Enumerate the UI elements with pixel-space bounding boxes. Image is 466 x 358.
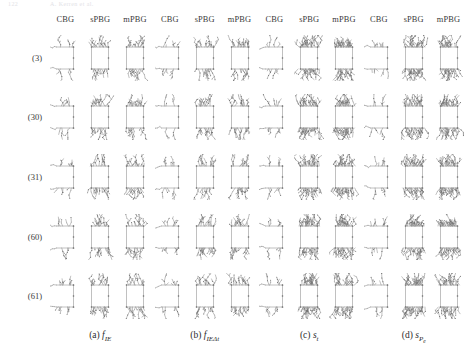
panel-group-a [48, 147, 153, 207]
graph-thumbnail-d-cbg-61[interactable] [362, 266, 397, 326]
graph-thumbnail-a-mpbg-61[interactable] [118, 266, 153, 326]
column-header-row: CBG sPBG mPBG CBG sPBG mPBG CBG sPBG mPB… [0, 15, 466, 28]
graph-thumbnail-c-cbg-61[interactable] [257, 266, 292, 326]
graph-thumbnail-a-spbg-61[interactable] [83, 266, 118, 326]
graph-thumbnail-a-cbg-30[interactable] [48, 88, 83, 148]
panel-group-d [362, 266, 466, 326]
graph-thumbnail-b-mpbg-60[interactable] [222, 207, 257, 267]
row-panel-groups [48, 88, 466, 148]
panel-group-b [153, 207, 258, 267]
column-header-group-b: CBG sPBG mPBG [153, 15, 258, 28]
panel-caption-index: (c) [300, 330, 313, 340]
panel-group-a [48, 88, 153, 148]
graph-thumbnail-b-spbg-61[interactable] [187, 266, 222, 326]
panel-group-b [153, 28, 258, 88]
graph-thumbnail-c-cbg-60[interactable] [257, 207, 292, 267]
graph-thumbnail-a-spbg-30[interactable] [83, 88, 118, 148]
graph-thumbnail-d-cbg-31[interactable] [362, 147, 397, 207]
graph-thumbnail-d-spbg-3[interactable] [396, 28, 431, 88]
panel-caption-c: (c) st [257, 330, 362, 350]
panel-group-c [257, 266, 362, 326]
graph-thumbnail-b-spbg-3[interactable] [187, 28, 222, 88]
graph-thumbnail-d-mpbg-30[interactable] [431, 88, 466, 148]
graph-thumbnail-a-spbg-3[interactable] [83, 28, 118, 88]
panel-caption-subsubscript: e [423, 338, 425, 344]
graph-thumbnail-c-spbg-30[interactable] [292, 88, 327, 148]
graph-thumbnail-b-spbg-30[interactable] [187, 88, 222, 148]
column-header-mpbg: mPBG [431, 15, 465, 24]
row-label: (60) [0, 232, 48, 242]
panel-group-d [362, 28, 466, 88]
graph-thumbnail-b-cbg-61[interactable] [153, 266, 188, 326]
graph-thumbnail-b-mpbg-30[interactable] [222, 88, 257, 148]
grid-row: (30) [0, 88, 466, 148]
graph-thumbnail-a-cbg-60[interactable] [48, 207, 83, 267]
panel-caption-d: (d) sPe [362, 330, 466, 350]
column-header-spbg: sPBG [397, 15, 431, 24]
column-header-cbg: CBG [153, 15, 187, 24]
panel-group-c [257, 207, 362, 267]
graph-thumbnail-b-cbg-30[interactable] [153, 88, 188, 148]
panel-group-a [48, 28, 153, 88]
graph-thumbnail-a-cbg-31[interactable] [48, 147, 83, 207]
graph-thumbnail-a-cbg-61[interactable] [48, 266, 83, 326]
graph-thumbnail-c-mpbg-30[interactable] [327, 88, 362, 148]
thumbnail-grid: (3)(30)(31)(60)(61) [0, 28, 466, 326]
graph-thumbnail-b-mpbg-61[interactable] [222, 266, 257, 326]
row-label: (30) [0, 112, 48, 122]
graph-thumbnail-c-mpbg-31[interactable] [327, 147, 362, 207]
graph-thumbnail-a-mpbg-31[interactable] [118, 147, 153, 207]
graph-thumbnail-d-spbg-61[interactable] [396, 266, 431, 326]
graph-thumbnail-c-spbg-31[interactable] [292, 147, 327, 207]
graph-thumbnail-b-mpbg-3[interactable] [222, 28, 257, 88]
graph-thumbnail-c-spbg-60[interactable] [292, 207, 327, 267]
column-header-mpbg: mPBG [118, 15, 152, 24]
grid-row: (61) [0, 266, 466, 326]
graph-thumbnail-d-mpbg-31[interactable] [431, 147, 466, 207]
graph-thumbnail-d-cbg-60[interactable] [362, 207, 397, 267]
graph-thumbnail-d-spbg-31[interactable] [396, 147, 431, 207]
panel-caption-subscript: t [317, 335, 319, 343]
graph-thumbnail-b-cbg-31[interactable] [153, 147, 188, 207]
graph-thumbnail-d-cbg-30[interactable] [362, 88, 397, 148]
row-panel-groups [48, 28, 466, 88]
graph-thumbnail-c-spbg-3[interactable] [292, 28, 327, 88]
graph-thumbnail-c-cbg-31[interactable] [257, 147, 292, 207]
panel-caption-index: (a) [89, 330, 102, 340]
row-label: (61) [0, 291, 48, 301]
graph-thumbnail-a-spbg-60[interactable] [83, 207, 118, 267]
graph-thumbnail-a-spbg-31[interactable] [83, 147, 118, 207]
graph-thumbnail-c-mpbg-61[interactable] [327, 266, 362, 326]
panel-group-d [362, 207, 466, 267]
graph-thumbnail-a-mpbg-3[interactable] [118, 28, 153, 88]
graph-thumbnail-c-cbg-30[interactable] [257, 88, 292, 148]
graph-thumbnail-a-cbg-3[interactable] [48, 28, 83, 88]
graph-thumbnail-b-spbg-60[interactable] [187, 207, 222, 267]
graph-thumbnail-a-mpbg-60[interactable] [118, 207, 153, 267]
panel-caption-subscript: IE [105, 335, 112, 343]
panel-group-a [48, 207, 153, 267]
column-header-group-c: CBG sPBG mPBG [257, 15, 362, 28]
graph-thumbnail-d-mpbg-61[interactable] [431, 266, 466, 326]
graph-thumbnail-b-cbg-60[interactable] [153, 207, 188, 267]
column-header-spbg: sPBG [83, 15, 117, 24]
panel-group-b [153, 266, 258, 326]
row-label: (3) [0, 53, 48, 63]
graph-thumbnail-c-cbg-3[interactable] [257, 28, 292, 88]
graph-thumbnail-c-mpbg-3[interactable] [327, 28, 362, 88]
graph-thumbnail-d-spbg-30[interactable] [396, 88, 431, 148]
graph-thumbnail-d-mpbg-60[interactable] [431, 207, 466, 267]
graph-thumbnail-b-mpbg-31[interactable] [222, 147, 257, 207]
panel-caption-index: (b) [190, 330, 203, 340]
row-label: (31) [0, 172, 48, 182]
panel-caption-row: (a) fIE(b) fIEΔt(c) st(d) sPe [0, 330, 466, 350]
graph-thumbnail-a-mpbg-30[interactable] [118, 88, 153, 148]
graph-thumbnail-c-mpbg-60[interactable] [327, 207, 362, 267]
graph-thumbnail-b-spbg-31[interactable] [187, 147, 222, 207]
graph-thumbnail-d-mpbg-3[interactable] [431, 28, 466, 88]
panel-caption-index: (d) [402, 330, 415, 340]
graph-thumbnail-d-spbg-60[interactable] [396, 207, 431, 267]
graph-thumbnail-c-spbg-61[interactable] [292, 266, 327, 326]
graph-thumbnail-b-cbg-3[interactable] [153, 28, 188, 88]
graph-thumbnail-d-cbg-3[interactable] [362, 28, 397, 88]
